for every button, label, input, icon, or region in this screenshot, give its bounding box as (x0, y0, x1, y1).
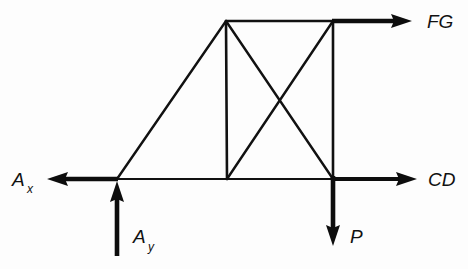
force-fg-arrowhead (391, 14, 412, 28)
label-ax-main: A (11, 169, 25, 190)
force-arrow-ay (110, 181, 124, 256)
truss-diagram-canvas: A x A y FG CD P (0, 0, 468, 269)
force-arrow-cd (333, 172, 417, 186)
force-ay-arrowhead (110, 181, 124, 202)
label-cd: CD (428, 169, 456, 190)
force-p-arrowhead (326, 225, 340, 246)
label-p: P (350, 226, 363, 247)
force-ax-arrowhead (47, 172, 68, 186)
label-ay-subscript: y (147, 240, 155, 254)
label-ay: A y (132, 226, 155, 254)
member-vertical-middle (226, 21, 227, 179)
force-arrow-p (326, 176, 340, 246)
label-ay-main: A (132, 226, 146, 247)
force-arrow-fg (332, 14, 412, 28)
force-arrow-ax (47, 172, 118, 186)
label-fg: FG (427, 11, 453, 32)
member-left-diagonal (117, 21, 226, 179)
truss-free-body-diagram: A x A y FG CD P (0, 0, 468, 269)
force-cd-arrowhead (396, 172, 417, 186)
truss-members (117, 21, 333, 179)
label-ax: A x (11, 169, 34, 196)
label-ax-subscript: x (26, 182, 34, 196)
